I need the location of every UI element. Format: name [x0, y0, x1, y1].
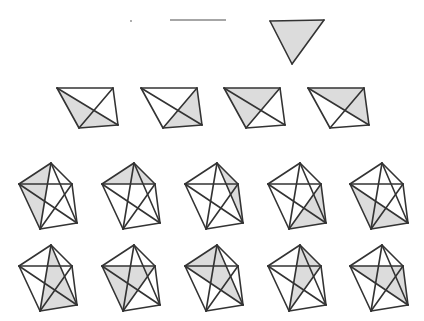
graph-edge: [382, 245, 403, 266]
graph-edge: [300, 163, 321, 184]
graph-edge: [246, 125, 285, 128]
k4-graph-3: [224, 88, 285, 128]
graph-edge: [280, 88, 285, 125]
k5-graph-row2-5: [350, 245, 408, 311]
graph-edge: [330, 125, 369, 128]
k4-graph-4: [308, 88, 369, 128]
k5-graph-row1-3: [185, 163, 243, 229]
k3-triangle: [270, 20, 324, 64]
graph-edge: [40, 223, 77, 229]
graph-edge: [350, 163, 382, 184]
graph-edge: [51, 163, 72, 184]
shaded-triangle: [185, 245, 243, 305]
graph-edge: [206, 184, 238, 229]
graph-edge: [206, 163, 217, 229]
graph-edge: [270, 20, 324, 21]
graph-edge: [289, 305, 326, 311]
k5-graph-row2-1: [19, 245, 77, 311]
graph-edge: [113, 88, 118, 125]
graph-edge: [382, 163, 403, 184]
k5-graph-row1-5: [350, 163, 408, 229]
k3-graph: [270, 20, 324, 64]
k4-graph-2: [141, 88, 202, 128]
k5-graphs-row-2: [19, 245, 408, 311]
k5-graph-row2-4: [268, 245, 326, 311]
graph-edge: [185, 163, 217, 184]
graph-edge: [350, 245, 382, 266]
k1-vertex-dot: [130, 20, 132, 22]
graph-edge: [19, 245, 51, 266]
graph-edge: [123, 184, 155, 229]
k5-graph-row1-1: [19, 163, 77, 229]
k4-graph-1: [57, 88, 118, 128]
k5-graph-row1-4: [268, 163, 326, 229]
k4-graphs-row: [57, 88, 369, 128]
k5-graph-row2-2: [102, 245, 160, 311]
k5-graph-row2-3: [185, 245, 243, 311]
graph-edge: [102, 245, 134, 266]
graph-edge: [134, 245, 155, 266]
graph-edge: [123, 305, 160, 311]
k5-graph-row1-2: [102, 163, 160, 229]
graph-edge: [206, 305, 243, 311]
graph-edge: [268, 163, 300, 184]
complete-graphs-diagram: [0, 0, 424, 321]
k5-graphs-row-1: [19, 163, 408, 229]
k1-graph: [130, 20, 132, 22]
graph-edge: [268, 245, 300, 266]
graph-edge: [371, 305, 408, 311]
graph-edge: [206, 223, 243, 229]
graph-edge: [123, 223, 160, 229]
